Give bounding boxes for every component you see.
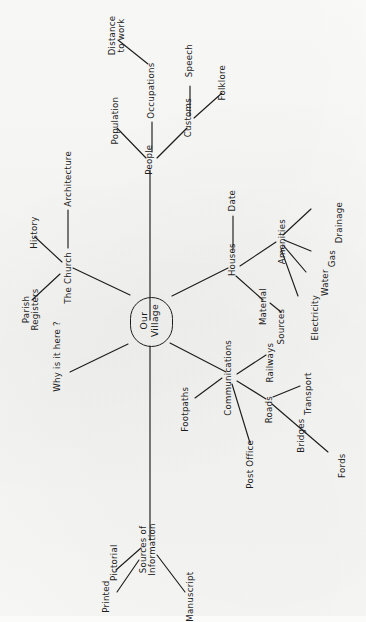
node-folklore[interactable]: Folklore: [218, 63, 227, 103]
edge-soi-printed: [117, 560, 139, 592]
node-population[interactable]: Population: [111, 97, 120, 145]
node-history[interactable]: History: [30, 215, 39, 251]
node-fords[interactable]: Fords: [338, 451, 347, 481]
node-parish-registers[interactable]: Parish Registers: [22, 284, 41, 334]
node-electricity[interactable]: Electricity: [311, 294, 320, 342]
edge-houses-amenities: [240, 242, 276, 266]
edge-soi-manuscript: [157, 555, 185, 592]
edge-people-population: [117, 128, 146, 158]
node-post-office[interactable]: Post Office: [246, 441, 255, 489]
node-architecture[interactable]: Architecture: [64, 153, 73, 207]
center-node-label: Our Village: [139, 302, 160, 340]
node-occupations[interactable]: Occupations: [147, 67, 156, 119]
edge-comm-postoffice: [232, 384, 250, 443]
edge-roads-transport: [273, 386, 300, 397]
node-sources[interactable]: Sources: [277, 307, 286, 347]
node-communications[interactable]: Communications: [224, 348, 233, 416]
edge-center-houses: [172, 268, 228, 296]
edge-center-why: [70, 344, 128, 372]
node-footpaths[interactable]: Footpaths: [181, 388, 190, 432]
node-distance-to-work[interactable]: Distance to work: [108, 7, 127, 63]
node-water[interactable]: Water: [321, 266, 330, 300]
node-sources-of-information[interactable]: Sources of Information: [139, 520, 158, 578]
edge-center-communications: [170, 343, 226, 372]
edge-comm-roads: [237, 381, 266, 399]
node-customs[interactable]: Customs: [184, 96, 193, 140]
edge-comm-railways: [237, 355, 266, 374]
node-transport[interactable]: Transport: [304, 371, 313, 417]
node-date[interactable]: Date: [228, 187, 237, 215]
node-houses[interactable]: Houses: [228, 241, 237, 279]
node-the-church[interactable]: The Church: [64, 258, 73, 304]
node-manuscript[interactable]: Manuscript: [186, 572, 195, 622]
edge-amenities-gas: [284, 240, 311, 251]
node-roads[interactable]: Roads: [265, 394, 274, 426]
node-railways[interactable]: Railways: [266, 342, 275, 384]
edge-center-church: [73, 268, 130, 295]
node-amenities[interactable]: Amenities: [278, 219, 287, 265]
node-speech[interactable]: Speech: [185, 41, 194, 81]
node-material[interactable]: Material: [259, 286, 268, 328]
node-bridges[interactable]: Bridges: [297, 417, 306, 455]
node-why-is-it-here[interactable]: Why is it here ?: [53, 334, 62, 392]
edge-comm-footpaths: [195, 378, 222, 398]
node-printed[interactable]: Printed: [102, 578, 111, 616]
node-pictorial[interactable]: Pictorial: [110, 542, 119, 584]
node-people[interactable]: People: [145, 141, 154, 179]
node-drainage[interactable]: Drainage: [335, 201, 344, 245]
